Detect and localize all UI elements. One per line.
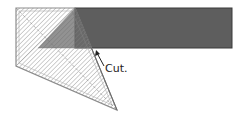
cutting-diagram: Cut. [0,0,241,121]
cut-label: Cut. [105,62,127,75]
fabric-strip [75,8,232,48]
